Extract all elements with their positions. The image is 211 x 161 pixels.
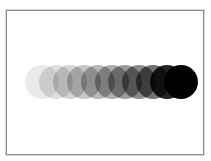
trail-circle bbox=[164, 65, 198, 99]
motion-trail bbox=[0, 0, 211, 161]
